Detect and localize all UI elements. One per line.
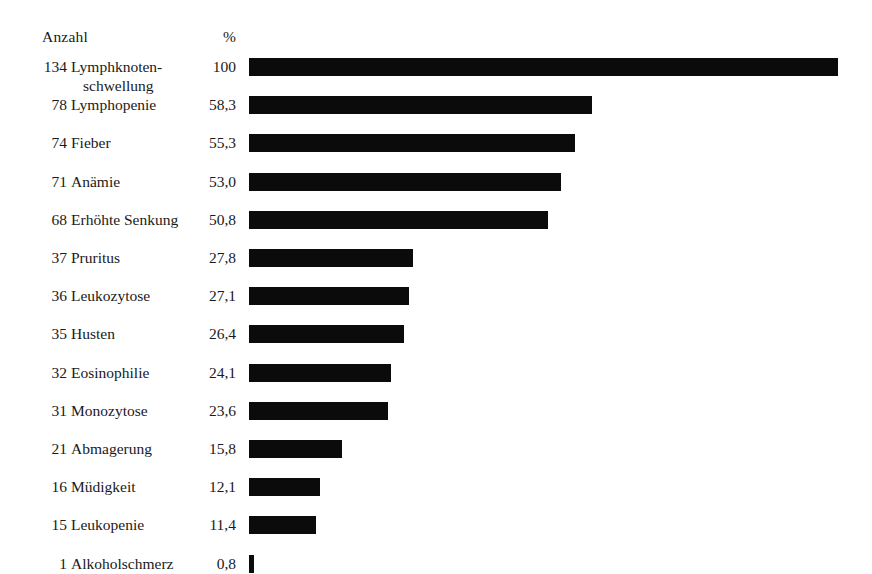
row-percent-value: 27,8 (150, 248, 236, 267)
chart-row: 16Müdigkeit12,1 (0, 477, 872, 507)
row-bar (249, 211, 548, 229)
row-label: Monozytose (71, 401, 151, 420)
row-label-line1: Lymphopenie (71, 96, 156, 113)
row-percent-value: 15,8 (150, 439, 236, 458)
row-label: Abmagerung (71, 439, 151, 458)
chart-row: 35Husten26,4 (0, 324, 872, 354)
row-bar (249, 402, 388, 420)
row-label: Husten (71, 324, 151, 343)
row-label: Leukopenie (71, 515, 151, 534)
chart-row: 78Lymphopenie58,3 (0, 95, 872, 125)
chart-page: Anzahl % 134Lymphknoten-schwellung10078L… (0, 0, 872, 574)
chart-row: 36Leukozytose27,1 (0, 286, 872, 316)
chart-row: 74Fieber55,3 (0, 133, 872, 163)
row-percent-value: 53,0 (150, 172, 236, 191)
row-percent-value: 50,8 (150, 210, 236, 229)
bar-chart-rows: 134Lymphknoten-schwellung10078Lymphopeni… (0, 0, 872, 574)
chart-row: 31Monozytose23,6 (0, 401, 872, 431)
row-label: Alkoholschmerz (71, 554, 151, 573)
row-percent-value: 23,6 (150, 401, 236, 420)
row-bar (249, 325, 404, 343)
row-label: Leukozytose (71, 286, 151, 305)
row-label: Eosinophilie (71, 363, 151, 382)
row-label-line1: Lymphknoten- (71, 58, 162, 75)
row-count: 68 (0, 210, 67, 229)
row-label-line1: Fieber (71, 134, 111, 151)
chart-row: 1Alkoholschmerz0,8 (0, 554, 872, 574)
row-percent-value: 24,1 (150, 363, 236, 382)
row-bar (249, 478, 320, 496)
row-count: 74 (0, 133, 67, 152)
row-bar (249, 516, 316, 534)
row-label: Anämie (71, 172, 151, 191)
row-percent-value: 0,8 (150, 554, 236, 573)
row-count: 1 (0, 554, 67, 573)
row-count: 35 (0, 324, 67, 343)
row-bar (249, 555, 254, 573)
chart-row: 71Anämie53,0 (0, 172, 872, 202)
row-label: Pruritus (71, 248, 151, 267)
row-bar (249, 249, 413, 267)
chart-row: 37Pruritus27,8 (0, 248, 872, 278)
row-percent-value: 26,4 (150, 324, 236, 343)
row-label-line1: Husten (71, 325, 115, 342)
row-label: Müdigkeit (71, 477, 151, 496)
chart-row: 32Eosinophilie24,1 (0, 363, 872, 393)
chart-row: 68Erhöhte Senkung50,8 (0, 210, 872, 240)
row-label: Lymphknoten-schwellung (71, 57, 151, 95)
row-label-line2: schwellung (71, 76, 151, 95)
row-bar (249, 96, 592, 114)
row-count: 15 (0, 515, 67, 534)
row-count: 31 (0, 401, 67, 420)
row-bar (249, 58, 838, 76)
row-count: 21 (0, 439, 67, 458)
row-percent-value: 100 (150, 57, 236, 76)
row-label-line1: Anämie (71, 173, 120, 190)
chart-row: 134Lymphknoten-schwellung100 (0, 57, 872, 87)
row-count: 134 (0, 57, 67, 76)
row-label-line1: Leukopenie (71, 516, 144, 533)
row-count: 78 (0, 95, 67, 114)
chart-row: 15Leukopenie11,4 (0, 515, 872, 545)
row-bar (249, 134, 575, 152)
row-label-line1: Eosinophilie (71, 364, 149, 381)
row-count: 71 (0, 172, 67, 191)
row-percent-value: 55,3 (150, 133, 236, 152)
row-label-line1: Pruritus (71, 249, 120, 266)
row-label-line1: Leukozytose (71, 287, 150, 304)
row-label-line1: Müdigkeit (71, 478, 136, 495)
row-count: 32 (0, 363, 67, 382)
row-count: 37 (0, 248, 67, 267)
row-percent-value: 12,1 (150, 477, 236, 496)
row-count: 36 (0, 286, 67, 305)
row-bar (249, 287, 409, 305)
row-label: Lymphopenie (71, 95, 151, 114)
row-label: Fieber (71, 133, 151, 152)
row-label-line1: Abmagerung (71, 440, 152, 457)
row-percent-value: 27,1 (150, 286, 236, 305)
chart-row: 21Abmagerung15,8 (0, 439, 872, 469)
row-percent-value: 58,3 (150, 95, 236, 114)
row-count: 16 (0, 477, 67, 496)
row-bar (249, 440, 342, 458)
row-label-line1: Monozytose (71, 402, 148, 419)
row-bar (249, 364, 391, 382)
row-percent-value: 11,4 (150, 515, 236, 534)
row-bar (249, 173, 561, 191)
row-label: Erhöhte Senkung (71, 210, 151, 229)
